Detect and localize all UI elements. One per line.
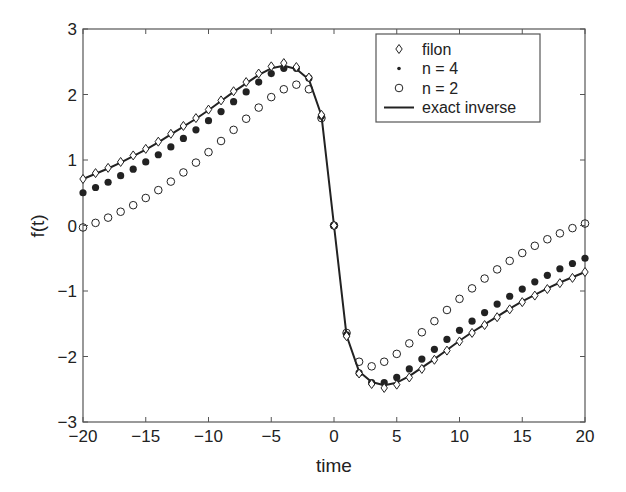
diamond-marker-icon — [92, 169, 98, 178]
circle-marker-icon — [431, 317, 439, 325]
dot-marker-icon — [406, 365, 413, 372]
dot-marker-icon — [481, 309, 488, 316]
circle-marker-icon — [418, 328, 426, 336]
x-axis-title: time — [316, 455, 352, 476]
dot-marker-icon — [255, 78, 262, 85]
diamond-marker-icon — [507, 305, 513, 314]
circle-marker-icon — [129, 201, 137, 209]
dot-marker-icon — [556, 265, 563, 272]
y-tick-label: 1 — [68, 151, 77, 170]
legend-label: n = 4 — [422, 60, 458, 77]
diamond-marker-icon — [105, 163, 111, 172]
circle-marker-icon — [493, 266, 501, 274]
circle-marker-icon — [393, 350, 401, 358]
dot-marker-icon — [130, 166, 137, 173]
dot-marker-icon — [180, 135, 187, 142]
dot-marker-icon — [117, 172, 124, 179]
x-tick-label: 20 — [576, 427, 595, 446]
diamond-marker-icon — [143, 144, 149, 153]
circle-marker-icon — [481, 275, 489, 283]
diamond-marker-icon — [117, 157, 123, 166]
dot-marker-icon — [205, 117, 212, 124]
dot-marker-icon — [581, 255, 588, 262]
y-tick-label: 2 — [68, 86, 77, 105]
legend-label: filon — [422, 41, 451, 58]
circle-marker-icon — [155, 186, 163, 194]
y-tick-label: −2 — [58, 348, 77, 367]
dot-marker-icon — [418, 356, 425, 363]
dot-marker-icon — [494, 301, 501, 308]
diamond-marker-icon — [519, 298, 525, 307]
chart: −20−15−10−505101520 −3−2−10123 time f(t)… — [0, 0, 626, 492]
dot-marker-icon — [105, 179, 112, 186]
x-tick-label: −5 — [262, 427, 281, 446]
dot-marker-icon — [243, 88, 250, 95]
diamond-marker-icon — [532, 291, 538, 300]
circle-marker-icon — [544, 235, 552, 243]
circle-marker-icon — [267, 93, 275, 101]
dot-marker-icon — [431, 346, 438, 353]
dot-marker-icon — [155, 151, 162, 158]
dot-marker-icon — [142, 158, 149, 165]
circle-marker-icon — [92, 219, 100, 227]
circle-marker-icon — [180, 169, 188, 177]
circle-marker-icon — [531, 242, 539, 250]
circle-marker-icon — [167, 178, 175, 186]
y-tick-label: 3 — [68, 20, 77, 39]
dot-marker-icon — [531, 278, 538, 285]
circle-marker-icon — [569, 224, 577, 232]
y-tick-label: −1 — [58, 282, 77, 301]
legend: filonn = 4n = 2exact inverse — [376, 34, 540, 122]
x-tick-label: −10 — [194, 427, 223, 446]
dot-marker-icon — [569, 260, 576, 267]
circle-marker-icon — [506, 257, 514, 265]
circle-marker-icon — [104, 214, 112, 222]
circle-marker-icon — [406, 340, 414, 348]
dot-marker-icon — [217, 108, 224, 115]
diamond-marker-icon — [155, 137, 161, 146]
dot-marker-icon — [468, 318, 475, 325]
x-tick-label: 15 — [513, 427, 532, 446]
x-tick-label: 5 — [392, 427, 401, 446]
circle-marker-icon — [456, 295, 464, 303]
diamond-marker-icon — [557, 279, 563, 288]
dot-marker-icon — [230, 98, 237, 105]
circle-marker-icon — [468, 285, 476, 293]
y-tick-label: −3 — [58, 413, 77, 432]
circle-marker-icon — [192, 159, 200, 167]
dot-marker-icon — [544, 272, 551, 279]
circle-marker-icon — [205, 148, 213, 156]
circle-marker-icon — [380, 358, 388, 366]
circle-marker-icon — [293, 81, 301, 89]
circle-marker-icon — [217, 137, 225, 145]
diamond-marker-icon — [569, 273, 575, 282]
circle-marker-icon — [518, 249, 526, 257]
dot-marker-icon — [92, 184, 99, 191]
dot-marker-icon — [506, 293, 513, 300]
dot-marker-icon — [79, 189, 86, 196]
circle-marker-icon — [280, 85, 288, 93]
dot-marker-icon — [192, 126, 199, 133]
y-tick-label: 0 — [68, 217, 77, 236]
diamond-marker-icon — [544, 285, 550, 294]
dot-marker-icon — [519, 285, 526, 292]
circle-marker-icon — [255, 104, 263, 112]
legend-label: exact inverse — [422, 99, 516, 116]
circle-marker-icon — [443, 306, 451, 314]
legend-label: n = 2 — [422, 80, 458, 97]
dot-marker-icon — [167, 143, 174, 150]
circle-marker-icon — [368, 363, 376, 371]
diamond-marker-icon — [80, 174, 86, 183]
diamond-marker-icon — [130, 151, 136, 160]
circle-marker-icon — [230, 126, 238, 134]
x-tick-label: 10 — [450, 427, 469, 446]
circle-marker-icon — [242, 115, 250, 123]
circle-marker-icon — [556, 230, 564, 238]
dot-marker-icon — [443, 336, 450, 343]
x-tick-label: 0 — [329, 427, 338, 446]
circle-marker-icon — [117, 208, 125, 216]
circle-marker-icon — [142, 194, 150, 202]
dot-marker-icon — [456, 327, 463, 334]
y-axis-title: f(t) — [27, 214, 48, 237]
x-tick-label: −15 — [131, 427, 160, 446]
